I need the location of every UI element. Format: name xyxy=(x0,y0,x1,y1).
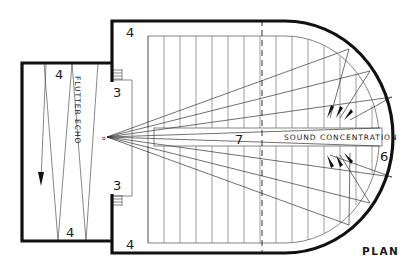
label-aisle-7: 7 xyxy=(235,132,243,147)
label-door-3-top: 3 xyxy=(113,85,121,100)
auditorium-plan-diagram: 4 4 4 4 3 3 7 6 o SOUND CONCENTRATION FL… xyxy=(0,0,413,275)
label-sound-concentration: SOUND CONCENTRATION xyxy=(284,133,398,142)
label-door-3-bottom: 3 xyxy=(113,178,121,193)
arrow-icon xyxy=(336,106,343,118)
arrow-icon xyxy=(336,155,343,167)
sound-source-marker: o xyxy=(102,134,106,141)
stage-wall xyxy=(22,63,112,241)
label-stage-4-bottom: 4 xyxy=(66,225,74,240)
label-hall-4-top: 4 xyxy=(126,25,134,40)
arrow-icon xyxy=(327,155,334,168)
sound-ray xyxy=(107,137,350,225)
label-rear-wall-6: 6 xyxy=(380,149,388,164)
diagram-title: PLAN xyxy=(362,245,399,257)
flutter-echo-rays xyxy=(41,63,98,241)
flutter-arrow-icon xyxy=(38,172,44,186)
label-flutter-echo: FLUTTER ECHO xyxy=(73,76,82,145)
door-steps-top xyxy=(113,69,122,80)
arrow-icon xyxy=(344,109,353,120)
sound-ray xyxy=(107,71,370,137)
label-hall-4-bottom: 4 xyxy=(126,237,134,252)
door-steps-bottom xyxy=(113,195,122,206)
arrow-icon xyxy=(344,153,353,164)
label-stage-4-top: 4 xyxy=(55,67,63,82)
